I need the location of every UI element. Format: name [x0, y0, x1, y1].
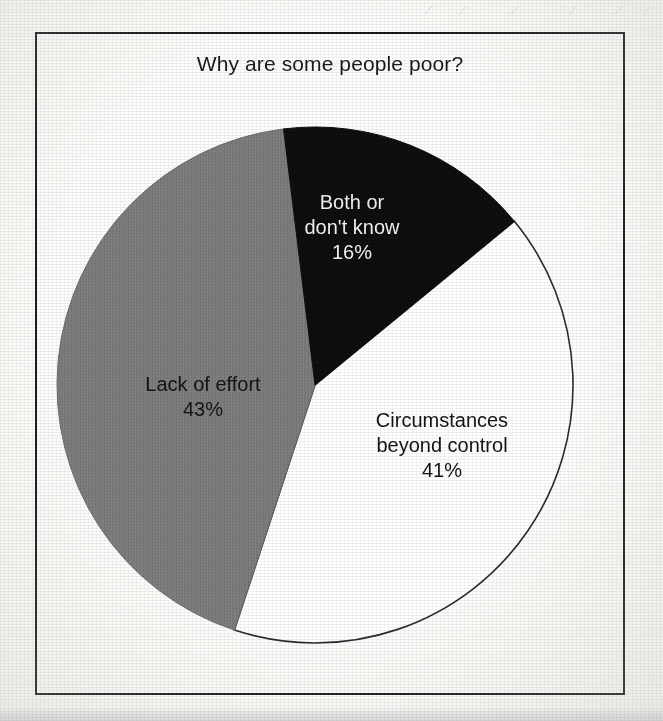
pie-chart: [0, 0, 663, 721]
pie-label-lack-of-effort-line1: Lack of effort: [145, 372, 260, 397]
page-title: Why are some people poor?: [35, 52, 625, 76]
pie-label-circumstances-beyond-control: Circumstances beyond control 41%: [376, 408, 508, 484]
pie-label-both-or-dont-know-value: 16%: [305, 240, 400, 265]
pie-label-circumstances-value: 41%: [376, 458, 508, 483]
pie-label-both-or-dont-know: Both or don't know 16%: [305, 190, 400, 266]
chart-page: Why are some people poor?: [0, 0, 663, 721]
pie-label-circumstances-line1: Circumstances: [376, 408, 508, 433]
scan-bottom-strip: [0, 707, 663, 721]
pie-label-circumstances-line2: beyond control: [376, 433, 508, 458]
pie-label-both-or-dont-know-line1: Both or: [305, 190, 400, 215]
pie-label-lack-of-effort-value: 43%: [145, 397, 260, 422]
pie-label-lack-of-effort: Lack of effort 43%: [145, 372, 260, 422]
pie-label-both-or-dont-know-line2: don't know: [305, 215, 400, 240]
